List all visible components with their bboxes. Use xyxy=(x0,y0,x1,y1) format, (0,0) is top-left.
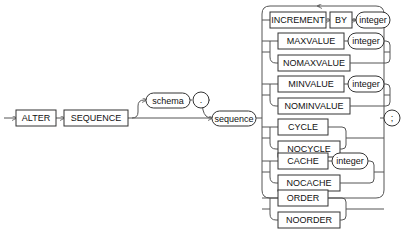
semicolon-terminator: ; xyxy=(384,110,400,126)
svg-text:NOMAXVALUE: NOMAXVALUE xyxy=(283,58,345,68)
svg-text:INCREMENT: INCREMENT xyxy=(271,15,325,25)
increment-integer-placeholder: integer xyxy=(356,12,390,28)
option-group-order: ORDERNOORDER xyxy=(262,190,384,228)
option-group-minvalue: MINVALUEintegerNOMINVALUE xyxy=(262,76,390,114)
alter-keyword: ALTER xyxy=(16,110,56,126)
svg-text:CACHE: CACHE xyxy=(287,156,319,166)
svg-text:ALTER: ALTER xyxy=(22,113,51,123)
svg-text:integer: integer xyxy=(352,36,380,46)
svg-text:ORDER: ORDER xyxy=(287,193,320,203)
svg-text:integer: integer xyxy=(359,15,387,25)
svg-text:.: . xyxy=(200,95,203,105)
svg-text:SEQUENCE: SEQUENCE xyxy=(71,113,122,123)
increment-by-option: INCREMENT BY xyxy=(270,12,356,28)
dot-separator: . xyxy=(193,92,209,108)
svg-text:;: ; xyxy=(391,113,394,123)
svg-text:BY: BY xyxy=(335,15,347,25)
sequence-placeholder: sequence xyxy=(212,111,256,126)
sequence-keyword: SEQUENCE xyxy=(64,110,128,126)
svg-text:CYCLE: CYCLE xyxy=(288,122,318,132)
svg-text:integer: integer xyxy=(336,156,364,166)
svg-text:integer: integer xyxy=(352,79,380,89)
option-group-maxvalue: MAXVALUEintegerNOMAXVALUE xyxy=(262,33,390,71)
svg-text:NOMINVALUE: NOMINVALUE xyxy=(285,101,344,111)
alter-sequence-syntax-diagram: ALTER SEQUENCE schema . sequence INCREME… xyxy=(0,0,406,233)
svg-text:NOCACHE: NOCACHE xyxy=(286,178,331,188)
svg-text:NOORDER: NOORDER xyxy=(286,215,333,225)
option-group-cache: CACHEintegerNOCACHE xyxy=(262,153,384,191)
svg-text:MINVALUE: MINVALUE xyxy=(288,79,333,89)
option-group-cycle: CYCLENOCYCLE xyxy=(262,119,384,157)
svg-text:schema: schema xyxy=(152,96,184,106)
schema-placeholder: schema xyxy=(146,93,190,108)
svg-text:sequence: sequence xyxy=(214,114,253,124)
svg-text:MAXVALUE: MAXVALUE xyxy=(287,36,335,46)
